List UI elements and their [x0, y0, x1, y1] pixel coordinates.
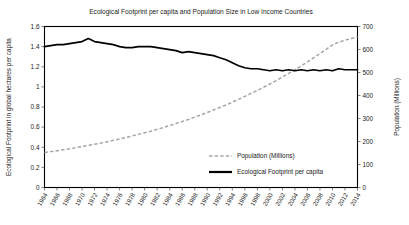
y-axis-left-title: Ecological Footprint in global hectares …: [5, 38, 13, 176]
ecological-footprint-population-chart: Ecological Footprint per capita and Popu…: [0, 0, 409, 225]
y-axis-right-tick-label: 600: [363, 46, 374, 53]
y-axis-right-tick-label: 700: [363, 23, 374, 30]
y-axis-right-title: Population (Millions): [393, 78, 401, 136]
legend-label: Population (Millions): [237, 152, 295, 160]
y-axis-left-tick-label: 0.6: [31, 123, 40, 130]
y-axis-right-tick-label: 400: [363, 92, 374, 99]
y-axis-right-tick-label: 100: [363, 161, 374, 168]
y-axis-left-tick-label: 0.4: [31, 144, 40, 151]
y-axis-left-tick-label: 0: [36, 184, 40, 191]
chart-container: Ecological Footprint per capita and Popu…: [0, 0, 409, 225]
y-axis-left-tick-label: 1.4: [31, 43, 40, 50]
y-axis-right-tick-label: 200: [363, 138, 374, 145]
y-axis-right-tick-label: 300: [363, 115, 374, 122]
y-axis-left-tick-label: 0.2: [31, 164, 40, 171]
legend-label: Ecological Footprint per capita: [237, 168, 323, 176]
chart-title: Ecological Footprint per capita and Popu…: [89, 8, 313, 16]
y-axis-left-tick-label: 1: [36, 83, 40, 90]
y-axis-left-tick-label: 1.6: [31, 23, 40, 30]
y-axis-left-tick-label: 1.2: [31, 63, 40, 70]
y-axis-right-tick-label: 0: [363, 184, 367, 191]
y-axis-right-tick-label: 500: [363, 69, 374, 76]
y-axis-left-tick-label: 0.8: [31, 103, 40, 110]
